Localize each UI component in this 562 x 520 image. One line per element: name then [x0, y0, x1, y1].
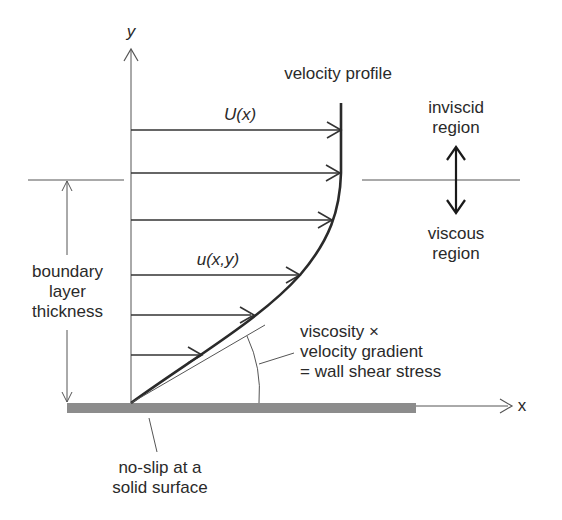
x-axis-label: x: [512, 396, 532, 416]
viscous-region-label: viscous region: [416, 224, 496, 264]
velocity-profile-label: velocity profile: [268, 64, 408, 84]
shear-angle-arc: [247, 336, 260, 403]
y-axis-label: y: [118, 22, 144, 42]
freestream-velocity-label: U(x): [210, 105, 270, 125]
wall-shear-leader: [259, 353, 294, 364]
wall-tangent-line: [131, 325, 265, 403]
solid-wall: [67, 403, 416, 413]
no-slip-leader: [149, 418, 157, 452]
no-slip-label: no-slip at a solid surface: [95, 458, 225, 498]
local-velocity-label: u(x,y): [178, 250, 258, 270]
boundary-layer-thickness-label: boundary layer thickness: [10, 262, 125, 322]
wall-shear-stress-label: viscosity × velocity gradient = wall she…: [300, 322, 470, 382]
inviscid-region-label: inviscid region: [416, 98, 496, 138]
